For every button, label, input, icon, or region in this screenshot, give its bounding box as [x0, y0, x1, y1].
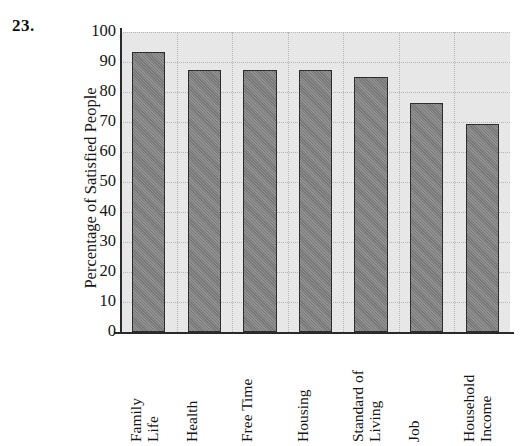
y-axis-tick-labels: 1009080706050403020100 [80, 0, 116, 446]
x-axis-label-group: Housing [288, 334, 344, 446]
y-axis-tick-label: 50 [82, 173, 116, 189]
bar [466, 124, 499, 333]
x-axis-label-group: Standard ofLiving [343, 334, 399, 446]
y-axis-tick-label: 80 [82, 83, 116, 99]
bar [243, 70, 276, 333]
y-axis-tick-label: 100 [82, 23, 116, 39]
y-axis-tick-label: 20 [82, 263, 116, 279]
y-axis-tick-label: 10 [82, 293, 116, 309]
bar [410, 103, 443, 333]
x-axis-tick-label: Life [144, 416, 162, 442]
bar [132, 52, 165, 333]
y-axis-tick-label: 0 [82, 323, 116, 339]
x-axis-tick-label: Living [366, 401, 384, 442]
x-axis-tick-label: Job [405, 420, 423, 442]
x-axis-tick-label: Household [460, 375, 478, 442]
y-axis-tick-label: 30 [82, 233, 116, 249]
y-axis-tick-label: 60 [82, 143, 116, 159]
y-axis-tick-label: 70 [82, 113, 116, 129]
x-axis-tick-label: Family [127, 398, 145, 442]
x-axis-tick-label: Standard of [349, 370, 367, 442]
bar [354, 77, 387, 332]
x-axis-label-group: Free Time [232, 334, 288, 446]
x-axis-label-group: Health [177, 334, 233, 446]
x-axis-tick-label: Health [183, 401, 201, 442]
x-axis-tick-label: Housing [294, 389, 312, 442]
x-axis-label-group: HouseholdIncome [454, 334, 510, 446]
bar [299, 70, 332, 333]
question-number: 23. [12, 16, 35, 36]
bar [188, 70, 221, 333]
bar-chart-figure: 23. Percentage of Satisfied People 10090… [0, 0, 528, 446]
y-axis-tick-label: 40 [82, 203, 116, 219]
x-axis-category-labels: FamilyLifeHealthFree TimeHousingStandard… [121, 334, 510, 446]
bars-layer [121, 32, 510, 332]
y-axis-tick-label: 90 [82, 53, 116, 69]
x-axis-tick-label: Income [477, 396, 495, 442]
x-axis-label-group: Job [399, 334, 455, 446]
x-axis-label-group: FamilyLife [121, 334, 177, 446]
x-axis-tick-label: Free Time [238, 379, 256, 442]
